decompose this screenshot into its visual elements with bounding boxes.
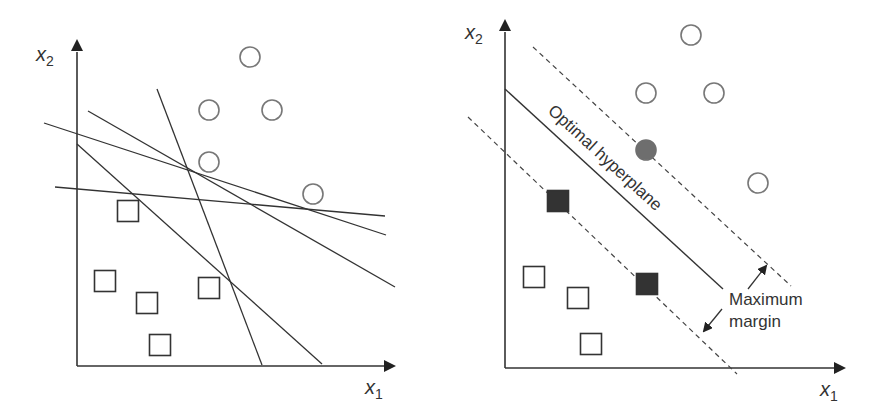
class-circle-point [748, 173, 768, 193]
left-axes [71, 39, 396, 372]
svm-diagram: x2 x1 x2 x1 Optimal hyperplane Maximum m… [0, 0, 890, 418]
candidate-separating-line [88, 111, 395, 287]
class-square-point [568, 288, 589, 309]
class-circle-point [262, 100, 282, 120]
class-circle-point [199, 152, 219, 172]
left-y-axis-arrow-icon [71, 39, 83, 51]
candidate-separating-line [44, 123, 386, 235]
class-square-point [524, 267, 545, 288]
class-circle-point [636, 83, 656, 103]
margin-arrow-lower [704, 309, 722, 331]
upper-margin-dashed-line [533, 47, 791, 286]
class-square-point [581, 334, 602, 355]
right-class-circles [636, 25, 768, 193]
class-square-point [150, 335, 171, 356]
candidate-separating-line [55, 187, 385, 216]
class-square-point [137, 293, 158, 314]
right-support-vector-squares [548, 191, 658, 295]
class-circle-point [303, 184, 323, 204]
maximum-margin-label-line1: Maximum [729, 290, 803, 309]
maximum-margin-label-line2: margin [729, 312, 781, 331]
left-class-squares [95, 201, 220, 356]
left-x-axis-label: x1 [364, 376, 383, 402]
left-separating-lines [44, 89, 395, 365]
candidate-separating-line [77, 144, 322, 364]
class-square-point [118, 201, 139, 222]
left-x-axis-arrow-icon [384, 360, 396, 372]
class-square-point [95, 271, 116, 292]
right-y-axis-arrow-icon [499, 19, 511, 31]
right-x-axis-arrow-icon [834, 362, 846, 374]
class-circle-point [704, 83, 724, 103]
right-panel: x2 x1 Optimal hyperplane Maximum margin [464, 19, 846, 404]
candidate-separating-line [157, 89, 262, 365]
right-x-axis-label: x1 [819, 378, 838, 404]
right-class-squares [524, 267, 602, 355]
class-circle-point [199, 100, 219, 120]
left-y-axis-label: x2 [35, 43, 54, 69]
class-square-point [199, 278, 220, 299]
right-y-axis-label: x2 [464, 21, 483, 47]
margin-arrow-upper [748, 266, 766, 289]
support-vector-square [548, 191, 569, 212]
left-panel: x2 x1 [35, 39, 396, 402]
optimal-hyperplane-line [505, 89, 723, 289]
right-support-vector-circles [636, 140, 656, 160]
class-circle-point [240, 47, 260, 67]
support-vector-circle [636, 140, 656, 160]
support-vector-square [637, 274, 658, 295]
class-circle-point [681, 25, 701, 45]
